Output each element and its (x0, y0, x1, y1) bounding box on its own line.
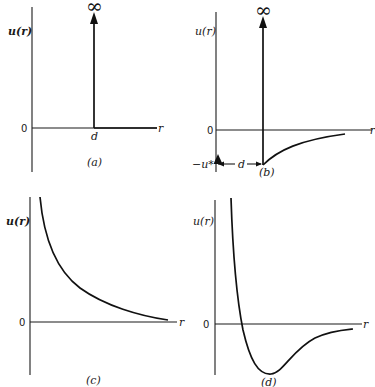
zero-label: 0 (21, 123, 27, 134)
zero-label: 0 (19, 317, 25, 328)
caption-c: (c) (86, 374, 101, 387)
arrow-left-icon (218, 162, 224, 167)
panel-b: ∞ u(r) 0 −u* d r (b) (192, 0, 375, 179)
infinity-label: ∞ (86, 0, 103, 18)
well-depth-label: −u* (192, 158, 214, 171)
panel-a: ∞ u(r) 0 d r (a) (8, 0, 164, 172)
infinity-label: ∞ (255, 0, 272, 22)
y-axis-label: u(r) (8, 25, 32, 38)
x-axis-label: r (363, 318, 369, 331)
zero-label: 0 (207, 125, 213, 136)
y-axis-label: u(r) (195, 25, 216, 38)
lennard-jones-curve (231, 198, 353, 374)
figure-canvas: ∞ u(r) 0 d r (a) ∞ u(r) 0 −u* d r (b) u(… (0, 0, 375, 387)
x-axis-label: r (179, 316, 185, 329)
y-axis-label: u(r) (193, 215, 214, 228)
d-label: d (238, 158, 245, 171)
x-axis-label: r (370, 124, 375, 137)
x-axis-label: r (158, 122, 164, 135)
d-label: d (91, 130, 98, 143)
panel-c: u(r) 0 r (c) (6, 197, 185, 387)
attractive-tail-curve (263, 134, 345, 165)
caption-d: (d) (261, 376, 277, 387)
y-axis-label: u(r) (6, 215, 30, 228)
panel-d: u(r) 0 r (d) (193, 198, 369, 387)
repulsive-curve (40, 197, 168, 320)
caption-b: (b) (259, 166, 275, 179)
zero-label: 0 (203, 319, 209, 330)
caption-a: (a) (87, 156, 102, 169)
